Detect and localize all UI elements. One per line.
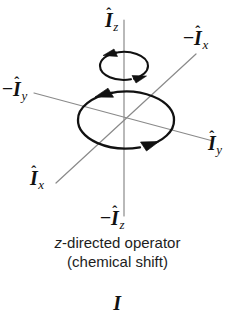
axis-label-x-positive-subscript: x: [38, 177, 44, 192]
axis-label-z-positive-symbol: ˆI: [105, 10, 113, 30]
upper-loop-arrowhead-right: [132, 76, 147, 84]
hat-accent-icon: ˆ: [195, 24, 200, 39]
caption-italic-z: z: [55, 234, 63, 251]
axis-label-x-negative-symbol: ˆI: [194, 28, 202, 48]
axis-label-y-negative: −ˆIy: [2, 79, 27, 102]
axis-label-x-negative-subscript: x: [202, 37, 208, 52]
axis-label-z-negative-subscript: z: [119, 217, 124, 232]
bottom-cropped-glyph: ˆI: [0, 293, 235, 316]
axis-label-z-positive-subscript: z: [113, 19, 118, 34]
hat-accent-icon: ˆ: [14, 75, 19, 90]
upper-loop-arrowhead-left: [103, 49, 118, 57]
axis-label-y-positive: ˆIy: [208, 133, 222, 156]
hat-accent-icon: ˆ: [209, 129, 214, 144]
figure-caption: z-directed operator (chemical shift): [0, 233, 235, 271]
axis-label-z-negative-sign: −: [100, 207, 111, 228]
operator-diagram-figure: ˆIz −ˆIx −ˆIy ˆIy ˆIx −ˆIz z-directed op…: [0, 0, 235, 316]
hat-accent-icon: ˆ: [106, 6, 111, 21]
equatorial-loop-arrowhead-right: [141, 142, 160, 152]
axis-label-x-positive-symbol: ˆI: [30, 168, 38, 188]
axis-label-y-positive-subscript: y: [216, 142, 222, 157]
equatorial-loop-arrowhead-left: [95, 88, 114, 97]
equatorial-precession-loop: [78, 92, 174, 149]
bottom-glyph-symbol: ˆI: [113, 293, 121, 313]
caption-line-1: z-directed operator: [55, 234, 181, 251]
hat-accent-icon: ˆ: [114, 293, 119, 304]
axis-label-x-negative: −ˆIx: [183, 28, 208, 51]
axis-label-x-negative-sign: −: [183, 27, 194, 48]
axis-label-z-positive: ˆIz: [105, 10, 118, 33]
axis-label-z-negative: −ˆIz: [100, 208, 124, 231]
caption-line-2: (chemical shift): [0, 252, 235, 271]
axis-label-y-negative-symbol: ˆI: [13, 79, 21, 99]
hat-accent-icon: ˆ: [112, 204, 117, 219]
caption-line-1-rest: -directed operator: [62, 234, 180, 251]
axis-label-y-negative-subscript: y: [21, 88, 27, 103]
axis-label-z-negative-symbol: ˆI: [111, 208, 119, 228]
axis-label-y-positive-symbol: ˆI: [208, 133, 216, 153]
axis-label-x-positive: ˆIx: [30, 168, 44, 191]
bottom-glyph-label: ˆI: [113, 293, 121, 316]
axis-label-y-negative-sign: −: [2, 78, 13, 99]
hat-accent-icon: ˆ: [31, 164, 36, 179]
